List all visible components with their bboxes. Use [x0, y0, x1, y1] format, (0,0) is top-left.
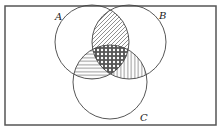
- venn-diagram: A B C: [0, 0, 221, 131]
- label-a: A: [54, 11, 62, 22]
- label-b: B: [158, 10, 166, 21]
- label-c: C: [140, 112, 148, 123]
- venn-svg: A B C: [0, 0, 221, 131]
